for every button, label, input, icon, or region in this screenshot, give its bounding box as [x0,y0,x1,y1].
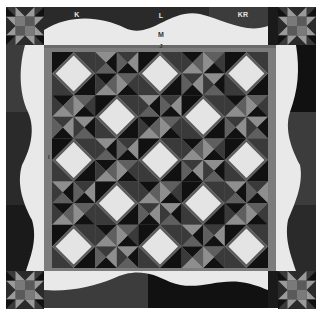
star-block-bottom-right [278,271,316,309]
label-k: K [74,11,79,18]
label-i: I [48,154,50,160]
label-kr: KR [238,11,249,18]
star-block-top-left [6,7,44,45]
label-m: M [158,31,164,38]
label-l: L [159,12,163,19]
label-j: J [159,43,163,49]
star-block-top-right [278,7,316,45]
star-block-bottom-left [6,271,44,309]
